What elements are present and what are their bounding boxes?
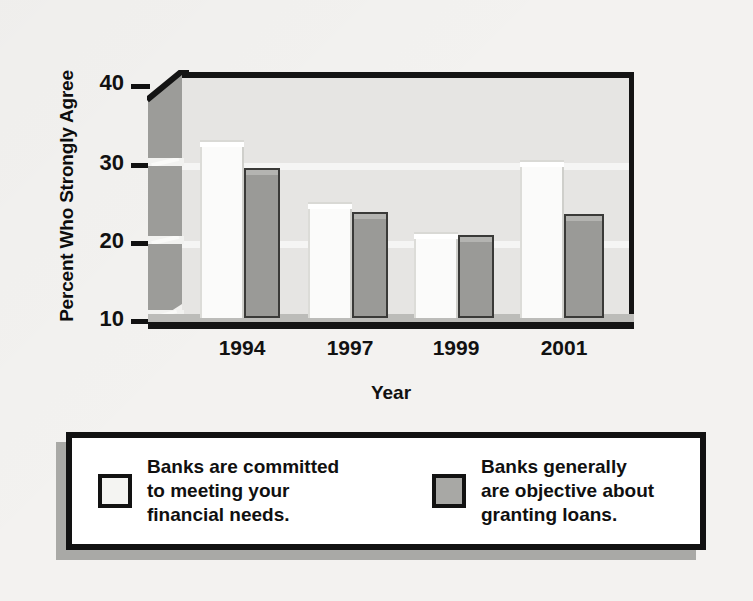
- bar-1997-committed-to-needs[interactable]: [308, 202, 352, 318]
- x-axis-title: Year: [148, 382, 634, 404]
- bar-group-1997: [304, 70, 400, 318]
- x-axis-line: [148, 322, 634, 329]
- bar-front-face: [244, 175, 280, 318]
- bar-front-face: [308, 209, 352, 318]
- x-tick-label-2001: 2001: [518, 336, 610, 360]
- bar-1999-objective-granting-loans[interactable]: [458, 235, 494, 318]
- bar-1994-objective-granting-loans[interactable]: [244, 168, 280, 318]
- bar-front-face: [200, 147, 244, 318]
- bar-2001-objective-granting-loans[interactable]: [564, 214, 604, 318]
- x-tick-label-1999: 1999: [410, 336, 502, 360]
- bar-front-face: [414, 239, 458, 318]
- chart-figure: Percent Who Strongly Agree 40 30 20 10: [0, 0, 753, 601]
- legend-item-label: Banks are committed to meeting your fina…: [147, 455, 339, 528]
- bar-group-1999: [410, 70, 506, 318]
- x-tick-label-1997: 1997: [304, 336, 396, 360]
- y-tick-label-20: 20: [78, 230, 124, 252]
- y-tick-label-40: 40: [78, 72, 124, 94]
- plot-left-wall: [148, 72, 184, 326]
- y-tick-label-10: 10: [78, 308, 124, 330]
- plot-bevel-edge: [147, 70, 189, 104]
- gridline-ledge-30: [148, 158, 184, 166]
- bar-front-face: [352, 219, 388, 318]
- legend-item-committed-to-needs[interactable]: Banks are committed to meeting your fina…: [98, 455, 428, 528]
- bar-1999-committed-to-needs[interactable]: [414, 232, 458, 318]
- light-swatch-icon: [98, 474, 132, 508]
- bar-front-face: [520, 167, 564, 318]
- legend-item-objective-granting-loans[interactable]: Banks generally are objective about gran…: [432, 455, 654, 528]
- gridline-ledge-20: [148, 236, 184, 244]
- legend-item-label: Banks generally are objective about gran…: [481, 455, 654, 528]
- x-axis-tick-labels: 1994 1997 1999 2001: [148, 336, 634, 370]
- y-axis-title: Percent Who Strongly Agree: [56, 66, 78, 326]
- bar-group-2001: [516, 70, 616, 318]
- bar-front-face: [564, 221, 604, 318]
- bar-1997-objective-granting-loans[interactable]: [352, 212, 388, 318]
- plot-area: [148, 70, 634, 328]
- bar-1994-committed-to-needs[interactable]: [200, 140, 244, 318]
- dark-swatch-icon: [432, 474, 466, 508]
- bar-group-1994: [196, 70, 292, 318]
- y-tick-label-30: 30: [78, 152, 124, 174]
- x-tick-label-1994: 1994: [196, 336, 288, 360]
- bar-front-face: [458, 242, 494, 318]
- legend-box: Banks are committed to meeting your fina…: [66, 432, 706, 550]
- bar-2001-committed-to-needs[interactable]: [520, 160, 564, 318]
